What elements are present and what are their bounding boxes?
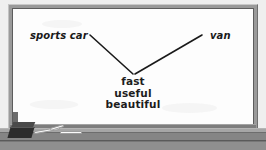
node-label-sports-car: sports car	[30, 30, 88, 41]
board-smudge	[42, 20, 82, 28]
center-attribute-list: fast useful beautiful	[12, 76, 254, 111]
whiteboard-scene: sports car van fast useful beautiful	[0, 0, 266, 150]
attribute-item-fast: fast	[12, 76, 254, 88]
attribute-item-beautiful: beautiful	[12, 99, 254, 111]
board-eraser	[7, 127, 34, 138]
chalk-stick	[60, 131, 82, 134]
node-label-van: van	[210, 30, 231, 41]
whiteboard-surface: sports car van fast useful beautiful	[12, 8, 254, 126]
connector-right	[135, 35, 202, 74]
connector-left	[90, 35, 133, 74]
tray-shadow	[0, 141, 266, 150]
